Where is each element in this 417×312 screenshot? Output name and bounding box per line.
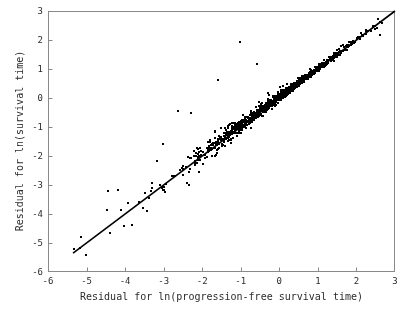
x-tick-label: -2	[197, 276, 208, 286]
x-tick-label: -4	[120, 276, 131, 286]
y-tick-label: 3	[24, 6, 43, 16]
x-tick-label: 0	[277, 276, 282, 286]
x-tick-label: 2	[354, 276, 359, 286]
x-tick-label: -1	[235, 276, 246, 286]
y-tick-label: 2	[24, 35, 43, 45]
y-tick-label: -5	[24, 238, 43, 248]
y-tick-label: -2	[24, 151, 43, 161]
x-axis-title: Residual for ln(progression-free surviva…	[48, 291, 395, 302]
y-tick-label: -3	[24, 180, 43, 190]
y-axis-title-text: Residual for ln(survival time)	[14, 51, 25, 232]
y-tick-label: -1	[24, 122, 43, 132]
y-tick-label: 1	[24, 64, 43, 74]
y-axis-title: Residual for ln(survival time)	[14, 0, 25, 141]
y-tick-label: -6	[24, 267, 43, 277]
y-tick-label: -4	[24, 209, 43, 219]
y-tick-label: 0	[24, 93, 43, 103]
scatter-canvas	[0, 0, 417, 312]
scatter-plot-figure: -6-5-4-3-2-10123 -6-5-4-3-2-10123 Residu…	[0, 0, 417, 312]
x-tick-label: -6	[43, 276, 54, 286]
x-tick-label: -3	[158, 276, 169, 286]
x-tick-label: -5	[81, 276, 92, 286]
x-tick-label: 3	[392, 276, 397, 286]
x-tick-label: 1	[315, 276, 320, 286]
